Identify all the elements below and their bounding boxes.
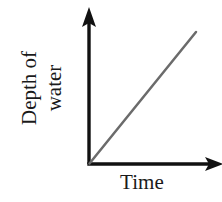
data-series-line xyxy=(90,32,197,164)
y-axis-title-line-1: Depth of xyxy=(17,51,42,125)
y-axis-title-text: Depth of water xyxy=(17,51,67,125)
chart-figure: Depth of water Time xyxy=(0,0,222,202)
y-axis-title: Depth of water xyxy=(0,0,84,176)
y-axis-title-line-2: water xyxy=(42,51,67,125)
x-axis-title: Time xyxy=(120,172,164,193)
